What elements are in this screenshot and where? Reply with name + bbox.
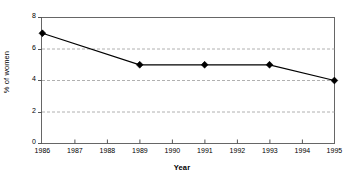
x-tick-label-1995: 1995 xyxy=(314,147,354,154)
line-chart: % of women 8 6 4 2 0 1986 1987 1988 1989… xyxy=(0,0,364,184)
plot-canvas xyxy=(0,0,364,184)
y-tick-label-0: 0 xyxy=(22,138,36,145)
y-tick-label-6: 6 xyxy=(22,44,36,51)
x-axis-title: Year xyxy=(0,163,364,172)
y-tick-label-4: 4 xyxy=(22,75,36,82)
y-tick-label-8: 8 xyxy=(22,12,36,19)
y-axis-title: % of women xyxy=(0,2,14,142)
y-tick-label-2: 2 xyxy=(22,107,36,114)
